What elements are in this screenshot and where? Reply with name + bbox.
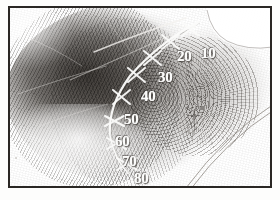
scale-label: 60 — [115, 134, 129, 149]
scale-label: 50 — [124, 112, 138, 127]
scale-label: 30 — [158, 70, 172, 85]
scale-label: 80 — [134, 171, 148, 186]
dust-speck — [15, 157, 17, 159]
figure-frame: 10 20 30 40 50 60 70 80 — [8, 6, 272, 188]
scale-label: 70 — [122, 154, 136, 169]
fingerprint-figure: 10 20 30 40 50 60 70 80 — [0, 0, 280, 200]
scale-label: 20 — [177, 49, 191, 64]
scale-label: 40 — [141, 89, 155, 104]
tick-60 — [105, 116, 124, 126]
scale-label: 10 — [201, 46, 215, 61]
fingerprint-plate: 10 20 30 40 50 60 70 80 — [10, 8, 270, 186]
white-notch-mark — [206, 8, 270, 49]
annotation-overlay — [10, 8, 270, 186]
corner-guide-lines — [186, 104, 270, 186]
tick-20 — [162, 35, 179, 49]
